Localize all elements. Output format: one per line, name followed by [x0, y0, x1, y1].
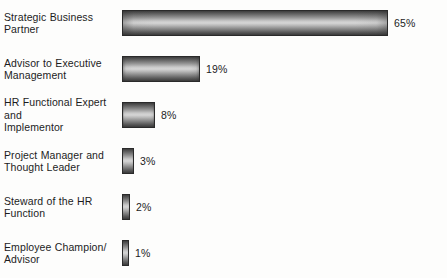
- category-label-line: Partner: [4, 23, 122, 36]
- category-label-line: Thought Leader: [4, 161, 122, 174]
- category-label-line: Advisor to Executive: [4, 57, 122, 70]
- bar: [122, 240, 129, 266]
- chart-row: Project Manager and Thought Leader 3%: [0, 138, 447, 184]
- bar-zone: 19%: [122, 46, 447, 92]
- category-label-line: Steward of the HR: [4, 195, 122, 208]
- bar-value-label: 1%: [135, 247, 150, 259]
- category-label: HR Functional Expert and Implementor: [0, 96, 122, 134]
- category-label-line: Function: [4, 207, 122, 220]
- bar-value-label: 8%: [161, 109, 176, 121]
- bar: [122, 10, 388, 36]
- bar: [122, 102, 155, 128]
- bar-value-label: 3%: [140, 155, 155, 167]
- category-label-line: HR Functional Expert and: [4, 96, 122, 121]
- bar-zone: 1%: [122, 230, 447, 276]
- chart-row: HR Functional Expert and Implementor 8%: [0, 92, 447, 138]
- bar: [122, 148, 134, 174]
- category-label: Project Manager and Thought Leader: [0, 149, 122, 174]
- horizontal-bar-chart: Strategic Business Partner 65% Advisor t…: [0, 0, 447, 278]
- bar-zone: 3%: [122, 138, 447, 184]
- bar: [122, 194, 130, 220]
- bar-zone: 65%: [122, 0, 447, 46]
- bar-value-label: 2%: [136, 201, 151, 213]
- category-label-line: Project Manager and: [4, 149, 122, 162]
- chart-row: Employee Champion/ Advisor 1%: [0, 230, 447, 276]
- chart-row: Advisor to Executive Management 19%: [0, 46, 447, 92]
- category-label-line: Strategic Business: [4, 11, 122, 24]
- category-label-line: Advisor: [4, 253, 122, 266]
- bar-zone: 8%: [122, 92, 447, 138]
- category-label-line: Employee Champion/: [4, 241, 122, 254]
- category-label: Employee Champion/ Advisor: [0, 241, 122, 266]
- category-label: Strategic Business Partner: [0, 11, 122, 36]
- category-label-line: Implementor: [4, 121, 122, 134]
- bar: [122, 56, 200, 82]
- chart-row: Steward of the HR Function 2%: [0, 184, 447, 230]
- category-label-line: Management: [4, 69, 122, 82]
- bar-value-label: 65%: [394, 17, 415, 29]
- bar-value-label: 19%: [206, 63, 227, 75]
- category-label: Advisor to Executive Management: [0, 57, 122, 82]
- bar-zone: 2%: [122, 184, 447, 230]
- category-label: Steward of the HR Function: [0, 195, 122, 220]
- chart-row: Strategic Business Partner 65%: [0, 0, 447, 46]
